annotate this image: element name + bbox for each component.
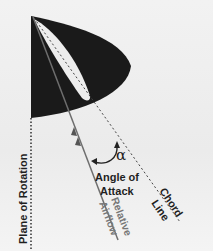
plane-of-rotation-label: Plane of Rotation xyxy=(17,153,29,244)
angle-of-attack-diagram: α Angle of Attack Chord Line Relative Ai… xyxy=(0,0,213,251)
angle-arc xyxy=(94,146,117,163)
angle-of-attack-label-2: Attack xyxy=(100,185,135,197)
angle-arc-arrow-icon xyxy=(91,158,97,165)
alpha-symbol: α xyxy=(116,146,126,164)
diagram-canvas: α Angle of Attack Chord Line Relative Ai… xyxy=(0,0,213,251)
angle-of-attack-label-1: Angle of xyxy=(95,171,139,183)
